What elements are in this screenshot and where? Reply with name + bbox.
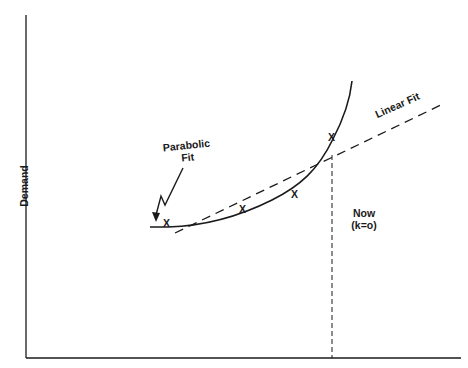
linear-fit-line bbox=[175, 103, 445, 233]
observation-marker: X bbox=[328, 131, 335, 143]
observation-marker: X bbox=[291, 188, 298, 200]
y-axis-label: Demand bbox=[18, 164, 30, 208]
now-label-line1: Now bbox=[344, 207, 384, 219]
observation-marker: X bbox=[163, 217, 170, 229]
parabolic-arrow bbox=[156, 168, 183, 215]
now-label-line2: (k=o) bbox=[344, 219, 384, 231]
observation-marker: X bbox=[239, 203, 246, 215]
now-label: Now (k=o) bbox=[344, 207, 384, 231]
arrow-head-icon bbox=[152, 212, 160, 222]
demand-forecast-diagram bbox=[0, 0, 468, 368]
